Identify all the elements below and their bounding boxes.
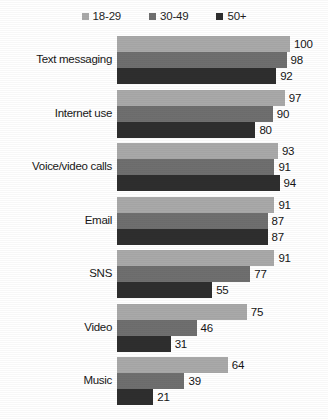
bar-50[interactable] bbox=[117, 282, 212, 298]
bar-50[interactable] bbox=[117, 122, 255, 138]
legend-item-label: 18-29 bbox=[93, 10, 121, 22]
legend-item-18-29[interactable]: 18-29 bbox=[82, 10, 121, 22]
legend-item-label: 30-49 bbox=[160, 10, 188, 22]
bar-50[interactable] bbox=[117, 175, 280, 191]
grouped-bar-chart: 18-2930-4950+ Text messaging1009892Inter… bbox=[0, 0, 328, 419]
bar-30-49[interactable] bbox=[117, 52, 287, 68]
bar-row: 90 bbox=[117, 106, 328, 122]
bar-value-label: 91 bbox=[278, 198, 290, 212]
bar-row: 97 bbox=[117, 90, 328, 106]
bar-value-label: 92 bbox=[280, 69, 292, 83]
bar-value-label: 100 bbox=[294, 37, 313, 51]
bar-row: 87 bbox=[117, 229, 328, 245]
bar-row: 80 bbox=[117, 122, 328, 138]
bar-row: 77 bbox=[117, 266, 328, 282]
bar-value-label: 31 bbox=[175, 337, 187, 351]
bar-value-label: 39 bbox=[188, 374, 200, 388]
bar-group: Email918787 bbox=[0, 197, 328, 245]
bar-row: 93 bbox=[117, 143, 328, 159]
bar-value-label: 97 bbox=[289, 91, 301, 105]
bar-row: 91 bbox=[117, 159, 328, 175]
bar-group: SNS917755 bbox=[0, 250, 328, 298]
chart-legend: 18-2930-4950+ bbox=[0, 7, 328, 25]
bar-18-29[interactable] bbox=[117, 143, 278, 159]
bar-30-49[interactable] bbox=[117, 320, 197, 336]
bar-value-label: 87 bbox=[272, 230, 284, 244]
bar-18-29[interactable] bbox=[117, 250, 274, 266]
bar-18-29[interactable] bbox=[117, 36, 290, 52]
bar-50[interactable] bbox=[117, 68, 276, 84]
bar-value-label: 98 bbox=[291, 53, 303, 67]
bar-value-label: 21 bbox=[157, 390, 169, 404]
bar-row: 46 bbox=[117, 320, 328, 336]
bar-30-49[interactable] bbox=[117, 266, 250, 282]
category-label: Internet use bbox=[0, 107, 112, 120]
legend-item-30-49[interactable]: 30-49 bbox=[149, 10, 188, 22]
bar-30-49[interactable] bbox=[117, 106, 273, 122]
bar-value-label: 94 bbox=[284, 176, 296, 190]
bar-18-29[interactable] bbox=[117, 197, 274, 213]
bar-row: 55 bbox=[117, 282, 328, 298]
bar-row: 94 bbox=[117, 175, 328, 191]
bar-value-label: 46 bbox=[201, 321, 213, 335]
bar-value-label: 91 bbox=[278, 251, 290, 265]
bar-group: Music643921 bbox=[0, 357, 328, 405]
bar-18-29[interactable] bbox=[117, 90, 285, 106]
bar-50[interactable] bbox=[117, 229, 268, 245]
bar-row: 100 bbox=[117, 36, 328, 52]
category-label: Email bbox=[0, 214, 112, 227]
legend-swatch-icon bbox=[82, 13, 89, 20]
bar-row: 87 bbox=[117, 213, 328, 229]
bar-18-29[interactable] bbox=[117, 304, 247, 320]
bar-50[interactable] bbox=[117, 336, 171, 352]
bar-value-label: 64 bbox=[232, 358, 244, 372]
bar-value-label: 55 bbox=[216, 283, 228, 297]
category-label: Text messaging bbox=[0, 53, 112, 66]
category-label: Music bbox=[0, 374, 112, 387]
legend-item-label: 50+ bbox=[227, 10, 246, 22]
bar-row: 98 bbox=[117, 52, 328, 68]
bar-row: 91 bbox=[117, 250, 328, 266]
category-label: SNS bbox=[0, 267, 112, 280]
bar-group: Internet use979080 bbox=[0, 90, 328, 138]
bar-row: 64 bbox=[117, 357, 328, 373]
bar-group: Voice/video calls939194 bbox=[0, 143, 328, 191]
bar-value-label: 87 bbox=[272, 214, 284, 228]
bar-value-label: 75 bbox=[251, 305, 263, 319]
bar-group: Text messaging1009892 bbox=[0, 36, 328, 84]
category-label: Voice/video calls bbox=[0, 160, 112, 173]
bar-row: 91 bbox=[117, 197, 328, 213]
bar-30-49[interactable] bbox=[117, 373, 184, 389]
bar-value-label: 93 bbox=[282, 144, 294, 158]
bar-row: 31 bbox=[117, 336, 328, 352]
bar-value-label: 90 bbox=[277, 107, 289, 121]
bar-value-label: 80 bbox=[259, 123, 271, 137]
category-label: Video bbox=[0, 321, 112, 334]
bar-30-49[interactable] bbox=[117, 213, 268, 229]
bar-row: 39 bbox=[117, 373, 328, 389]
bar-row: 92 bbox=[117, 68, 328, 84]
bar-row: 75 bbox=[117, 304, 328, 320]
bar-value-label: 77 bbox=[254, 267, 266, 281]
legend-item-50[interactable]: 50+ bbox=[216, 10, 246, 22]
bar-30-49[interactable] bbox=[117, 159, 274, 175]
bar-row: 21 bbox=[117, 389, 328, 405]
legend-swatch-icon bbox=[149, 13, 156, 20]
bar-group: Video754631 bbox=[0, 304, 328, 352]
bar-50[interactable] bbox=[117, 389, 153, 405]
bar-value-label: 91 bbox=[278, 160, 290, 174]
plot-area: Text messaging1009892Internet use979080V… bbox=[0, 30, 328, 419]
legend-swatch-icon bbox=[216, 13, 223, 20]
bar-18-29[interactable] bbox=[117, 357, 228, 373]
